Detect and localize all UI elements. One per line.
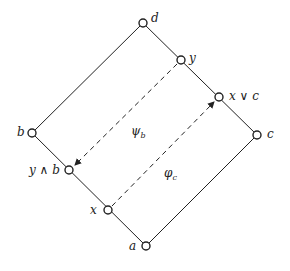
label-psi-b-main: ψ (131, 124, 140, 138)
label-x-join-c: x ∨ c (229, 90, 259, 102)
node-b (28, 129, 36, 137)
edge-a-c (146, 135, 257, 246)
node-y (177, 56, 185, 64)
node-c (253, 131, 261, 139)
node-a (142, 242, 150, 250)
label-y: y (189, 52, 196, 64)
label-b: b (17, 126, 25, 138)
node-x (104, 206, 112, 214)
node-d (139, 19, 147, 27)
map-phi-c-arrow (112, 102, 214, 206)
label-x: x (90, 204, 97, 216)
map-psi-b-arrow (75, 64, 177, 165)
label-phi-c: φc (164, 167, 177, 182)
label-y-meet-b: y ∧ b (29, 164, 60, 176)
node-x-join-c (215, 93, 223, 101)
label-psi-b-sub: b (140, 131, 145, 140)
label-phi-c-sub: c (172, 173, 176, 182)
node-y-meet-b (65, 166, 73, 174)
edge-d-b (32, 23, 143, 133)
lattice-diagram: d y x ∨ c c b y ∧ b x a ψb φc (0, 0, 290, 271)
label-c: c (267, 128, 274, 140)
edge-b-a (32, 133, 146, 246)
label-psi-b: ψb (131, 125, 146, 140)
edge-d-c (143, 23, 257, 135)
label-a: a (129, 240, 136, 252)
label-d: d (151, 12, 159, 24)
